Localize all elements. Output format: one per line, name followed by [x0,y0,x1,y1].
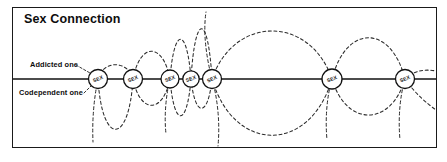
sex-node[interactable]: SEX [161,70,179,88]
figure-root: SEX SEX SEX SEX SEX [0,0,447,162]
sex-node[interactable]: SEX [396,70,415,89]
sex-node[interactable]: SEX [89,70,108,89]
codependent-wave-group [98,79,436,135]
lower-arc-6 [332,79,405,115]
sex-node[interactable]: SEX [124,70,143,89]
codependent-leader-line [84,85,92,93]
addicted-wave-group [98,29,436,79]
upper-arc-5 [212,31,332,79]
sex-node[interactable]: SEX [203,70,222,89]
addicted-one-label: Addicted one [30,61,78,68]
lower-arc-5 [212,79,332,135]
page-title: Sex Connection [24,13,121,27]
upper-arc-6 [332,38,405,79]
sex-node[interactable]: SEX [322,69,342,89]
sex-node[interactable]: SEX [183,71,199,87]
codependent-one-label: Codependent one [19,89,83,96]
addicted-leader-line [76,65,90,73]
